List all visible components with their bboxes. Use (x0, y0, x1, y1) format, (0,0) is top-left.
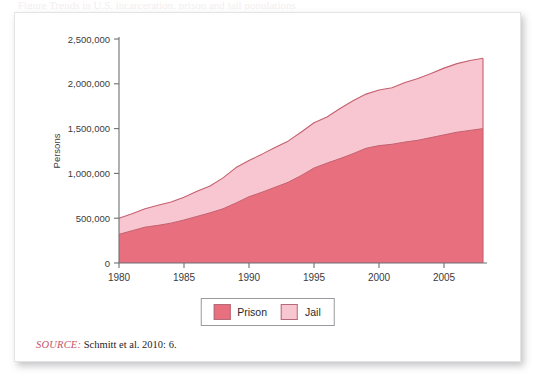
figure-title-sliver: Figure Trends in U.S. incarceration, pri… (18, 0, 488, 9)
svg-text:0: 0 (105, 258, 110, 269)
legend-item-jail[interactable]: Jail (281, 304, 321, 320)
svg-text:2000: 2000 (368, 272, 391, 283)
source-line: SOURCE: Schmitt et al. 2010: 6. (36, 339, 177, 350)
svg-text:1990: 1990 (238, 272, 261, 283)
svg-text:Persons: Persons (51, 133, 62, 168)
figure-card: 0500,0001,000,0001,500,0002,000,0002,500… (14, 12, 521, 362)
svg-text:500,000: 500,000 (76, 213, 110, 224)
source-label: SOURCE: (36, 339, 81, 350)
svg-text:2005: 2005 (433, 272, 456, 283)
source-citation: Schmitt et al. 2010: 6. (84, 339, 177, 350)
svg-text:1,000,000: 1,000,000 (68, 168, 110, 179)
legend-swatch-prison (213, 304, 230, 320)
svg-text:2,000,000: 2,000,000 (68, 78, 110, 89)
svg-text:2,500,000: 2,500,000 (68, 34, 110, 45)
svg-text:1,500,000: 1,500,000 (68, 123, 110, 134)
svg-text:1980: 1980 (108, 272, 131, 283)
legend-label-prison: Prison (237, 306, 267, 318)
legend-label-jail: Jail (305, 306, 321, 318)
svg-text:1995: 1995 (303, 272, 326, 283)
svg-text:1985: 1985 (173, 272, 196, 283)
legend-swatch-jail (281, 304, 298, 320)
legend-item-prison[interactable]: Prison (213, 304, 267, 320)
chart-legend: Prison Jail (200, 298, 335, 326)
